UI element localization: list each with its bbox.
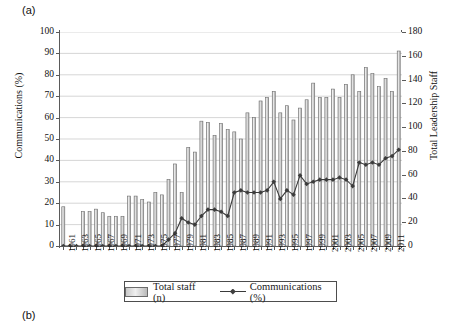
- x-axis-tick-label: 1979: [185, 234, 195, 252]
- line-series-communications: [60, 32, 402, 246]
- x-axis-tick-label: 1971: [133, 234, 143, 252]
- line-marker-icon: [220, 287, 245, 296]
- y-axis-right-tick: [402, 175, 406, 176]
- bar-swatch-icon: [125, 287, 148, 297]
- x-axis-tick: [129, 247, 130, 250]
- legend-label-bars: Total staff (n): [153, 281, 208, 303]
- x-axis-tick-label: 1999: [317, 234, 327, 252]
- y-axis-left-tick: [56, 203, 60, 204]
- y-axis-left-tick-label: 40: [28, 155, 54, 164]
- y-axis-left-tick-label: 10: [28, 220, 54, 229]
- y-axis-left-tick-label: 90: [28, 48, 54, 57]
- plot-area: [60, 32, 402, 246]
- x-axis-tick-label: 2011: [396, 234, 406, 252]
- x-axis-tick: [208, 247, 209, 250]
- x-axis-tick: [287, 247, 288, 250]
- y-axis-right-tick: [402, 127, 406, 128]
- y-axis-left-tick-label: 0: [28, 241, 54, 250]
- x-axis-tick-label: 2001: [330, 234, 340, 252]
- x-axis-tick-label: 2003: [343, 234, 353, 252]
- x-axis-tick-label: 1997: [304, 234, 314, 252]
- x-axis-tick-label: 1961: [67, 234, 77, 252]
- y-axis-right-title: Total Leadership Staff: [428, 41, 439, 191]
- y-axis-left-tick: [56, 246, 60, 247]
- y-axis-left-tick-label: 100: [28, 27, 54, 36]
- chart-legend: Total staff (n) Communications (%): [124, 281, 337, 302]
- x-axis-tick-label: 1995: [290, 234, 300, 252]
- y-axis-left-tick-label: 80: [28, 70, 54, 79]
- y-axis-right-tick-label: 180: [408, 27, 434, 36]
- y-axis-left-tick-label: 50: [28, 134, 54, 143]
- x-axis-tick-label: 1991: [264, 234, 274, 252]
- y-axis-left-tick-label: 30: [28, 177, 54, 186]
- y-axis-left-tick: [56, 139, 60, 140]
- y-axis-left-tick: [56, 32, 60, 33]
- x-axis-tick: [116, 247, 117, 250]
- y-axis-left-tick: [56, 118, 60, 119]
- x-axis-tick: [379, 247, 380, 250]
- x-axis-tick-label: 2005: [356, 234, 366, 252]
- x-axis-tick: [300, 247, 301, 250]
- x-axis-tick-label: 1975: [159, 234, 169, 252]
- x-axis-tick-label: 1969: [119, 234, 129, 252]
- x-axis-tick-label: 2007: [369, 234, 379, 252]
- x-axis-tick-label: 1985: [225, 234, 235, 252]
- x-axis-tick-label: 1989: [251, 234, 261, 252]
- y-axis-right-tick: [402, 80, 406, 81]
- x-axis-tick-label: 1965: [93, 234, 103, 252]
- y-axis-left-tick: [56, 182, 60, 183]
- legend-label-line: Communications (%): [250, 281, 336, 303]
- panel-label: (a): [22, 4, 35, 16]
- y-axis-left-tick: [56, 225, 60, 226]
- x-axis-tick-label: 1981: [198, 234, 208, 252]
- x-axis-tick: [63, 247, 64, 250]
- next-panel-label: (b): [22, 309, 35, 321]
- y-axis-right-tick: [402, 222, 406, 223]
- y-axis-right-tick: [402, 198, 406, 199]
- x-axis-tick-label: 1963: [80, 234, 90, 252]
- y-axis-left-title: Communications (%): [13, 46, 24, 186]
- x-axis-tick-label: 1977: [172, 234, 182, 252]
- y-axis-right-tick: [402, 56, 406, 57]
- y-axis-right-tick: [402, 32, 406, 33]
- y-axis-left-tick: [56, 96, 60, 97]
- y-axis-left-tick-label: 60: [28, 113, 54, 122]
- y-axis-right-tick-label: 20: [408, 217, 434, 226]
- y-axis-left-tick: [56, 75, 60, 76]
- x-axis-tick-label: 1967: [106, 234, 116, 252]
- y-axis-left-tick: [56, 160, 60, 161]
- legend-entry-line: Communications (%): [220, 281, 336, 303]
- y-axis-right-tick-label: 0: [408, 241, 434, 250]
- y-axis-left-tick-label: 70: [28, 91, 54, 100]
- legend-entry-bars: Total staff (n): [125, 281, 208, 303]
- x-axis-tick-label: 1993: [277, 234, 287, 252]
- x-axis-tick-label: 1983: [212, 234, 222, 252]
- y-axis-left-tick-label: 20: [28, 198, 54, 207]
- y-axis-right-tick-label: 40: [408, 193, 434, 202]
- x-axis-tick-label: 1973: [146, 234, 156, 252]
- x-axis-tick-label: 1987: [238, 234, 248, 252]
- y-axis-left-tick: [56, 53, 60, 54]
- y-axis-right-tick: [402, 151, 406, 152]
- y-axis-right-tick: [402, 103, 406, 104]
- x-axis-tick-label: 2009: [383, 234, 393, 252]
